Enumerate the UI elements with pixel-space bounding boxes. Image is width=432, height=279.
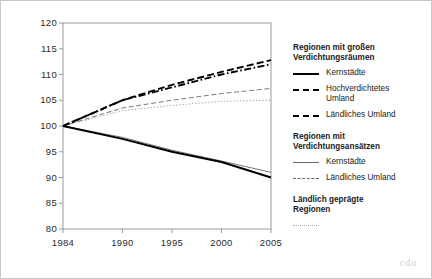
legend-entry-0-0[interactable]: Kernstädte — [293, 68, 425, 78]
x-tick-label-1990: 1990 — [96, 237, 148, 248]
x-tick-label-1984: 1984 — [37, 237, 89, 248]
plot-area-border — [63, 23, 271, 229]
dash-dot-thick-sample — [293, 85, 319, 94]
y-tick-label-95: 95 — [19, 146, 57, 157]
legend-entry-1-1[interactable]: Ländliches Umland — [293, 173, 425, 183]
dashed-thick-sample — [293, 111, 319, 120]
chart-page: 80859095100105110115120 1984199019952000… — [0, 0, 432, 279]
x-tick-label-1995: 1995 — [146, 237, 198, 248]
y-tick-label-110: 110 — [19, 69, 57, 80]
x-axis-ticks — [63, 229, 271, 233]
y-tick-label-90: 90 — [19, 172, 57, 183]
legend-group-heading-0: Regionen mit großen Verdichtungsräumen — [293, 43, 425, 63]
legend-entry-1-0[interactable]: Kernstädte — [293, 157, 425, 167]
legend-entry-label-0-0: Kernstädte — [326, 68, 366, 78]
legend-entry-label-1-0: Kernstädte — [326, 157, 366, 167]
solid-thick-sample — [293, 69, 319, 78]
cdu-watermark: cdu — [400, 256, 417, 268]
y-tick-label-100: 100 — [19, 120, 57, 131]
x-tick-label-2000: 2000 — [195, 237, 247, 248]
y-axis-ticks — [59, 23, 63, 229]
legend-entry-2-0[interactable] — [293, 220, 425, 230]
legend-entry-label-1-1: Ländliches Umland — [326, 173, 396, 183]
legend-group-heading-1: Regionen mit Verdichtungsansätzen — [293, 132, 425, 152]
legend-entry-label-0-2: Ländliches Umland — [326, 110, 396, 120]
dashed-thin-sample — [293, 174, 319, 183]
plot-frame — [63, 23, 271, 229]
legend-entry-label-0-1: Hochverdichtetes Umland — [326, 84, 389, 104]
x-tick-label-2005: 2005 — [245, 237, 297, 248]
legend-group-heading-2: Ländlich geprägte Regionen — [293, 195, 425, 215]
y-tick-label-85: 85 — [19, 197, 57, 208]
dotted-thin-sample — [293, 221, 319, 230]
y-tick-label-105: 105 — [19, 94, 57, 105]
legend-entry-0-2[interactable]: Ländliches Umland — [293, 110, 425, 120]
solid-thin-sample — [293, 158, 319, 167]
chart-legend: Regionen mit großen VerdichtungsräumenKe… — [293, 43, 425, 236]
y-tick-label-115: 115 — [19, 43, 57, 54]
y-tick-label-80: 80 — [19, 223, 57, 234]
legend-entry-0-1[interactable]: Hochverdichtetes Umland — [293, 84, 425, 104]
y-tick-label-120: 120 — [19, 17, 57, 28]
